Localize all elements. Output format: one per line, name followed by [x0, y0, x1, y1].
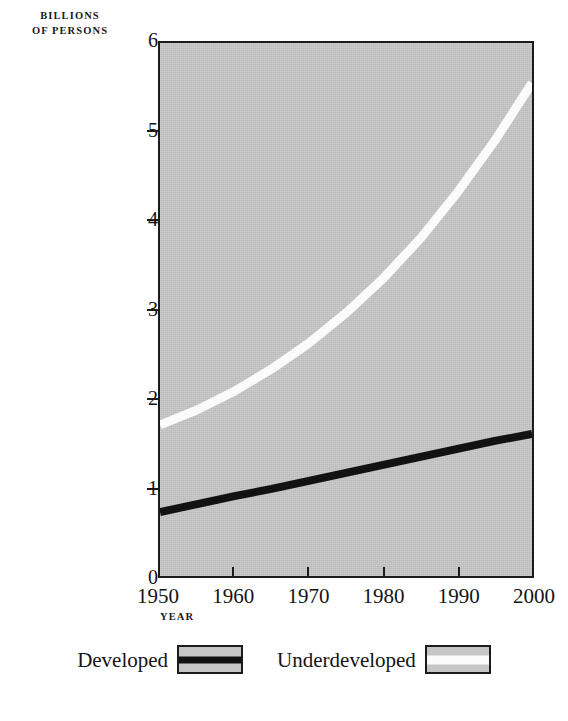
legend-swatch-underdeveloped: [425, 645, 491, 674]
legend-label-developed: Developed: [77, 648, 168, 672]
x-tick-label-1960: 1960: [193, 585, 273, 608]
x-tick-mark-1970: [307, 567, 309, 578]
x-axis: YEAR 195019601970198019902000: [0, 0, 568, 721]
x-axis-title: YEAR: [160, 611, 194, 622]
x-tick-label-1970: 1970: [268, 585, 348, 608]
x-tick-label-2000: 2000: [494, 585, 568, 608]
chart-legend: DevelopedUnderdeveloped: [0, 645, 568, 674]
legend-swatch-band: [427, 655, 489, 664]
legend-swatch-developed: [177, 645, 243, 674]
x-tick-mark-1990: [458, 567, 460, 578]
legend-entry-developed[interactable]: Developed: [77, 645, 243, 674]
legend-label-underdeveloped: Underdeveloped: [277, 648, 416, 672]
population-growth-chart: BILLIONS OF PERSONS 0123456 YEAR 1950196…: [0, 0, 568, 721]
legend-swatch-band: [179, 656, 241, 663]
x-tick-label-1990: 1990: [419, 585, 499, 608]
x-tick-label-1950: 1950: [118, 585, 198, 608]
x-tick-mark-1960: [232, 567, 234, 578]
x-tick-mark-1980: [383, 567, 385, 578]
x-tick-label-1980: 1980: [344, 585, 424, 608]
legend-entry-underdeveloped[interactable]: Underdeveloped: [277, 645, 491, 674]
